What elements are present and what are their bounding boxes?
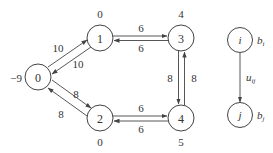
node-0-label: 0: [35, 71, 41, 85]
capacity-3-4: 8: [167, 72, 173, 84]
legend-b-i: bi: [257, 34, 265, 48]
node-4-label: 4: [178, 112, 184, 126]
legend-u-ij: uij: [246, 71, 255, 85]
node-1: 1: [87, 25, 113, 51]
capacity-0-1: 10: [53, 42, 65, 54]
network-flow-diagram: 0 1 2 3 4 i j −9 0 0 4 5 10 10 8 8 6 6 6…: [0, 0, 273, 153]
supply-node-3: 4: [178, 8, 184, 20]
node-0: 0: [25, 64, 51, 90]
edge-0-2: [52, 80, 91, 108]
capacity-4-3: 8: [191, 72, 197, 84]
supply-node-2: 0: [97, 136, 103, 148]
legend-node-i: i: [228, 28, 253, 53]
capacity-3-1: 6: [138, 42, 144, 54]
capacity-4-2: 6: [138, 123, 144, 135]
legend-node-i-label: i: [238, 34, 241, 46]
node-3-label: 3: [178, 32, 184, 46]
legend-b-j: bj: [257, 109, 265, 123]
capacity-1-3: 6: [138, 22, 144, 34]
legend-node-j: j: [228, 103, 253, 128]
capacity-2-4: 6: [138, 102, 144, 114]
capacity-2-0: 8: [58, 108, 64, 120]
node-3: 3: [168, 25, 194, 51]
capacity-0-2: 8: [73, 88, 79, 100]
capacity-1-0: 10: [73, 58, 85, 70]
node-2: 2: [87, 105, 113, 131]
node-2-label: 2: [97, 112, 103, 126]
supply-node-1: 0: [97, 8, 103, 20]
node-1-label: 1: [97, 32, 103, 46]
supply-node-0: −9: [10, 72, 22, 84]
supply-node-4: 5: [178, 136, 184, 148]
node-4: 4: [168, 105, 194, 131]
edge-2-0: [48, 88, 87, 116]
